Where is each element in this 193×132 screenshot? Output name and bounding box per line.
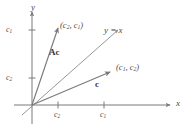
x-tick-label-c1-sub: 1 <box>104 113 107 119</box>
x-tick-label-c2: c2 <box>54 111 60 119</box>
y-axis-label: y <box>31 3 35 12</box>
point-label-ac-close: ) <box>80 20 83 30</box>
vector-reflection-figure: x y c2 c1 c1 c2 (c2, c1) (c1, c2) y = x … <box>0 0 193 132</box>
y-tick-label-c2: c2 <box>6 74 12 82</box>
x-tick-label-c2-sub: 2 <box>58 113 61 119</box>
point-label-ac: (c2, c1) <box>60 21 83 30</box>
vector-label-ac: Ac <box>49 48 60 57</box>
line-label-y-equals-x: y = x <box>104 26 123 35</box>
figure-canvas <box>0 0 193 132</box>
vector-label-c: c <box>95 80 99 89</box>
vector-ac-arrow <box>32 28 58 105</box>
point-label-c-close: ) <box>136 62 139 72</box>
x-axis-label: x <box>176 99 180 108</box>
y-tick-label-c1-sub: 1 <box>10 28 13 34</box>
point-label-c: (c1, c2) <box>116 63 139 72</box>
x-tick-label-c1: c1 <box>100 111 106 119</box>
y-tick-label-c1: c1 <box>6 26 12 34</box>
y-tick-label-c2-sub: 2 <box>10 76 13 82</box>
